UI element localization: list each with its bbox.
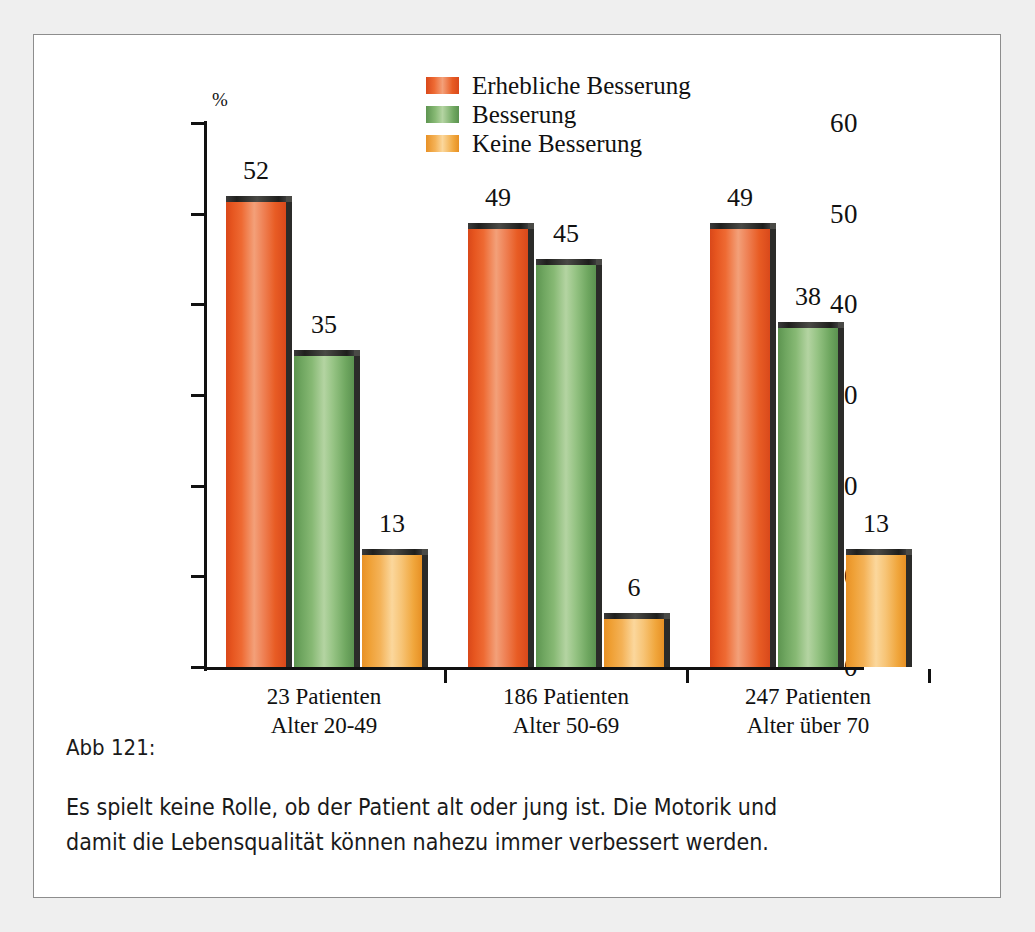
bar-cap-shadow	[422, 549, 428, 555]
bar-fill	[468, 223, 528, 667]
bar-fill	[710, 223, 770, 667]
bar-value-label: 45	[553, 219, 579, 249]
bar: 52	[226, 196, 286, 667]
y-axis-tick	[191, 666, 205, 669]
bar-value-label: 52	[243, 156, 269, 186]
bar-cap-shadow	[906, 549, 912, 555]
bar-fill	[778, 322, 838, 667]
bar-cap-shadow	[528, 223, 534, 229]
x-axis-group-label-line: 247 Patienten	[688, 683, 928, 712]
bar-cap-shadow	[838, 322, 844, 328]
bar-side-shadow	[664, 619, 670, 667]
bar: 35	[294, 350, 354, 667]
bar-fill	[362, 549, 422, 667]
x-axis-group-label: 186 PatientenAlter 50-69	[446, 683, 686, 741]
x-axis-group-label-line: 23 Patienten	[204, 683, 444, 712]
bar-top-cap	[710, 223, 770, 229]
bar-top-cap	[536, 259, 596, 265]
bar-side-shadow	[422, 555, 428, 667]
bar-cap-shadow	[596, 259, 602, 265]
bar: 6	[604, 613, 664, 667]
y-axis-tick	[191, 122, 205, 125]
bar-fill	[226, 196, 286, 667]
legend-item-erhebliche-besserung: Erhebliche Besserung	[426, 71, 691, 100]
figure-caption-line: Es spielt keine Rolle, ob der Patient al…	[66, 790, 966, 825]
bar-cap-shadow	[664, 613, 670, 619]
x-axis-group-label-line: 186 Patienten	[446, 683, 686, 712]
bar-cap-shadow	[354, 350, 360, 356]
bar: 13	[362, 549, 422, 667]
bar: 49	[468, 223, 528, 667]
plot-area: % 0102030405060 52494935453813613	[204, 123, 884, 669]
y-axis-tick	[191, 485, 205, 488]
y-axis-tick	[191, 394, 205, 397]
figure-caption-body: Es spielt keine Rolle, ob der Patient al…	[66, 790, 966, 860]
x-axis-separator-tick	[928, 669, 931, 683]
bar-cap-shadow	[286, 196, 292, 202]
legend-label-erhebliche-besserung: Erhebliche Besserung	[472, 72, 691, 100]
legend-swatch-icon-besserung	[426, 106, 459, 123]
bar-side-shadow	[528, 229, 534, 667]
bar-top-cap	[468, 223, 528, 229]
bar-value-label: 49	[727, 183, 753, 213]
y-axis-tick-label: 40	[830, 291, 858, 318]
bar-fill	[604, 613, 664, 667]
y-axis-tick	[191, 213, 205, 216]
bar-fill	[536, 259, 596, 667]
figure-frame: Erhebliche Besserung Besserung Keine Bes…	[33, 34, 1001, 898]
bar: 13	[846, 549, 906, 667]
x-axis-separator-tick	[444, 669, 447, 683]
x-axis-separator-tick	[686, 669, 689, 683]
bar-fill	[846, 549, 906, 667]
figure-caption-title: Abb 121:	[66, 735, 966, 760]
x-axis-group-label: 23 PatientenAlter 20-49	[204, 683, 444, 741]
bar-side-shadow	[838, 328, 844, 667]
bar-side-shadow	[354, 356, 360, 667]
bar-side-shadow	[770, 229, 776, 667]
bar-top-cap	[362, 549, 422, 555]
bar-cap-shadow	[770, 223, 776, 229]
bar: 49	[710, 223, 770, 667]
bar-value-label: 38	[795, 282, 821, 312]
bar: 45	[536, 259, 596, 667]
bar-top-cap	[226, 196, 286, 202]
bar-value-label: 35	[311, 310, 337, 340]
bar-top-cap	[604, 613, 664, 619]
bar-fill	[294, 350, 354, 667]
bar-top-cap	[778, 322, 838, 328]
bar-value-label: 6	[628, 573, 641, 603]
figure-caption-line: damit die Lebensqualität können nahezu i…	[66, 825, 966, 860]
y-axis-unit-label: %	[212, 89, 228, 111]
bar-value-label: 13	[863, 509, 889, 539]
bar-value-label: 13	[379, 509, 405, 539]
bar-side-shadow	[286, 202, 292, 667]
bar-value-label: 49	[485, 183, 511, 213]
legend-swatch-icon-erhebliche-besserung	[426, 77, 459, 94]
x-axis-line	[204, 667, 864, 670]
y-axis-tick-label: 60	[830, 110, 858, 137]
bar-side-shadow	[906, 555, 912, 667]
bar-side-shadow	[596, 265, 602, 667]
bar-top-cap	[846, 549, 906, 555]
y-axis-tick	[191, 575, 205, 578]
y-axis-tick	[191, 303, 205, 306]
y-axis-tick-label: 50	[830, 200, 858, 227]
bar: 38	[778, 322, 838, 667]
figure-caption: Abb 121: Es spielt keine Rolle, ob der P…	[66, 735, 966, 860]
bar-chart: Erhebliche Besserung Besserung Keine Bes…	[34, 35, 1000, 735]
x-axis-group-label: 247 PatientenAlter über 70	[688, 683, 928, 741]
bar-top-cap	[294, 350, 354, 356]
